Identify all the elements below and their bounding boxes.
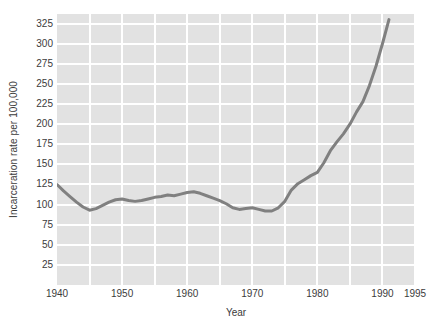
y-tick-label: 125: [22, 179, 53, 189]
x-tick-label: 1970: [230, 288, 274, 300]
y-tick-label: 75: [22, 220, 53, 230]
y-tick-label: 300: [22, 39, 53, 49]
y-tick-label: 200: [22, 119, 53, 129]
y-tick-label: 50: [22, 240, 53, 250]
plot-area: [57, 14, 415, 285]
y-tick-label: 250: [22, 79, 53, 89]
y-tick-label: 100: [22, 200, 53, 210]
y-tick-label: 25: [22, 260, 53, 270]
x-tick-label: 1960: [165, 288, 209, 300]
y-axis-label-text: Incarceration rate per 100,000: [8, 81, 19, 218]
y-tick-label: 175: [22, 139, 53, 149]
y-tick-label: 275: [22, 59, 53, 69]
y-tick-label: 225: [22, 99, 53, 109]
x-axis-tick-labels: 1940195019601970198019901995: [0, 288, 427, 302]
y-tick-label: 325: [22, 19, 53, 29]
y-axis-label: Incarceration rate per 100,000: [4, 14, 22, 285]
incarceration-rate-line-chart: Incarceration rate per 100,000 255075100…: [0, 0, 427, 331]
y-tick-label: 150: [22, 159, 53, 169]
x-tick-label: 1950: [100, 288, 144, 300]
x-tick-label: 1980: [295, 288, 339, 300]
data-series-line: [57, 14, 415, 285]
x-axis-label: Year: [57, 307, 415, 318]
y-axis-tick-labels: 255075100125150175200225250275300325: [22, 14, 53, 285]
x-tick-label: 1940: [35, 288, 79, 300]
x-tick-label: 1995: [393, 288, 427, 300]
